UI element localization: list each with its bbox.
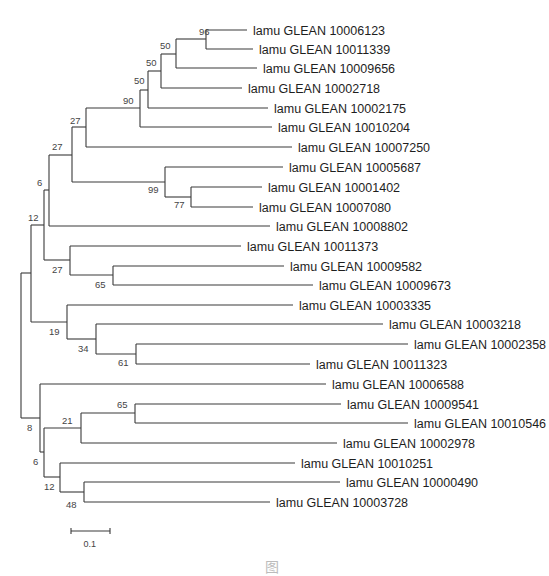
leaf-label: lamu GLEAN 10008802 (276, 220, 408, 234)
bootstrap-value: 27 (52, 141, 63, 152)
leaf-label: lamu GLEAN 10002358 (414, 338, 546, 352)
bootstrap-value: 27 (52, 264, 63, 275)
leaf-label: lamu GLEAN 10002978 (343, 437, 475, 451)
bootstrap-value: 90 (123, 95, 134, 106)
leaf-label: lamu GLEAN 10003218 (389, 318, 521, 332)
bootstrap-value: 65 (117, 399, 128, 410)
leaf-label: lamu GLEAN 10007250 (298, 141, 430, 155)
leaf-label: lamu GLEAN 10009541 (347, 398, 479, 412)
leaf-label: lamu GLEAN 10003728 (276, 496, 408, 510)
bootstrap-value: 12 (44, 481, 55, 492)
leaf-label: lamu GLEAN 10011339 (259, 43, 390, 57)
bootstrap-value: 12 (28, 212, 39, 223)
bootstrap-value: 50 (134, 75, 145, 86)
leaf-label: lamu GLEAN 10011373 (247, 240, 378, 254)
leaf-labels: lamu GLEAN 10006123lamu GLEAN 10011339la… (247, 24, 546, 510)
bootstrap-value: 50 (146, 57, 157, 68)
figure-caption-clipped: 图 (0, 556, 549, 576)
leaf-label: lamu GLEAN 10010251 (301, 457, 433, 471)
leaf-label: lamu GLEAN 10002718 (248, 82, 380, 96)
bootstrap-values: 9650505090272799776122765193461652186124… (27, 26, 210, 510)
bootstrap-value: 50 (160, 40, 171, 51)
scale-bar-label: 0.1 (84, 539, 97, 549)
leaf-label: lamu GLEAN 10002175 (274, 102, 406, 116)
scale-bar: 0.1 (71, 528, 110, 549)
leaf-label: lamu GLEAN 10009656 (263, 62, 395, 76)
bootstrap-value: 21 (62, 415, 73, 426)
bootstrap-value: 77 (174, 199, 185, 210)
bootstrap-value: 96 (199, 26, 210, 37)
bootstrap-value: 27 (70, 115, 81, 126)
bootstrap-value: 8 (27, 422, 32, 433)
bootstrap-value: 6 (37, 177, 42, 188)
leaf-label: lamu GLEAN 10003335 (299, 299, 431, 313)
leaf-label: lamu GLEAN 10006123 (253, 24, 385, 38)
leaf-label: lamu GLEAN 10000490 (346, 476, 478, 490)
leaf-label: lamu GLEAN 10007080 (259, 201, 391, 215)
bootstrap-value: 65 (95, 279, 106, 290)
leaf-label: lamu GLEAN 10009673 (319, 279, 451, 293)
bootstrap-value: 48 (66, 499, 77, 510)
leaf-label: lamu GLEAN 10009582 (290, 260, 422, 274)
bootstrap-value: 19 (49, 326, 60, 337)
leaf-label: lamu GLEAN 10011323 (316, 358, 447, 372)
leaf-label: lamu GLEAN 10010204 (278, 121, 410, 135)
leaf-label: lamu GLEAN 10010546 (414, 417, 546, 431)
leaf-label: lamu GLEAN 10005687 (289, 161, 421, 175)
bootstrap-value: 34 (78, 343, 89, 354)
leaf-label: lamu GLEAN 10001402 (268, 181, 400, 195)
bootstrap-value: 99 (148, 184, 159, 195)
bootstrap-value: 61 (118, 357, 129, 368)
leaf-label: lamu GLEAN 10006588 (332, 378, 464, 392)
bootstrap-value: 6 (33, 456, 38, 467)
